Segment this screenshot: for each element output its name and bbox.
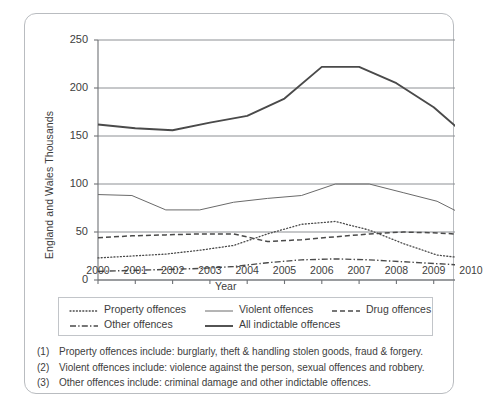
line-chart-plot (25, 14, 455, 289)
x-tick-label-2008: 2008 (376, 264, 416, 276)
legend-label: Drug offences (366, 303, 431, 315)
footnote-text: Other offences include: criminal damage … (59, 375, 371, 391)
footnote-text: Property offences include: burglarly, th… (59, 344, 423, 360)
y-tick-label-250: 250 (58, 33, 88, 45)
series-line-all-indictable-offences (98, 67, 455, 140)
footnote-number: (1) (37, 344, 59, 360)
footnotes: (1)Property offences include: burglarly,… (37, 344, 445, 391)
y-tick-label-50: 50 (58, 225, 88, 237)
x-tick-label-2000: 2000 (78, 264, 118, 276)
axis-ticks (94, 40, 455, 284)
x-tick-label-2005: 2005 (265, 264, 305, 276)
figure-panel: England and Wales Thousands Year 0501001… (24, 13, 454, 394)
footnote-3: (3)Other offences include: criminal dama… (37, 375, 445, 391)
series-line-violent-offences (98, 184, 455, 219)
footnote-number: (2) (37, 360, 59, 376)
legend-label: Other offences (104, 318, 173, 330)
x-tick-label-2001: 2001 (115, 264, 155, 276)
series-line-drug-offences (98, 232, 455, 242)
legend-key-all-solid-thick (204, 320, 234, 330)
x-tick-label-2009: 2009 (414, 264, 454, 276)
series-lines (98, 67, 455, 271)
legend-key-other-dash-dot-dot (69, 320, 99, 330)
legend-key-property-dotted (69, 305, 99, 315)
footnote-number: (3) (37, 375, 59, 391)
x-tick-label-2006: 2006 (302, 264, 342, 276)
legend-label: Violent offences (239, 303, 313, 315)
chart-legend: Property offencesViolent offencesDrug of… (58, 297, 433, 336)
legend-key-violent-solid-thin (204, 305, 234, 315)
series-line-property-offences (98, 221, 455, 258)
x-tick-label-2004: 2004 (227, 264, 267, 276)
x-tick-label-2002: 2002 (153, 264, 193, 276)
x-tick-label-2003: 2003 (190, 264, 230, 276)
chart-area: England and Wales Thousands Year 0501001… (25, 14, 455, 289)
footnote-2: (2)Violent offences include: violence ag… (37, 360, 445, 376)
footnote-text: Violent offences include: violence again… (59, 360, 425, 376)
gridlines (98, 40, 455, 280)
y-tick-label-150: 150 (58, 129, 88, 141)
legend-key-drug-dashed (331, 305, 361, 315)
legend-label: Property offences (104, 303, 186, 315)
x-tick-label-2010: 2010 (451, 264, 487, 276)
legend-label: All indictable offences (239, 318, 340, 330)
y-tick-label-200: 200 (58, 81, 88, 93)
x-tick-label-2007: 2007 (339, 264, 379, 276)
y-tick-label-100: 100 (58, 177, 88, 189)
footnote-1: (1)Property offences include: burglarly,… (37, 344, 445, 360)
